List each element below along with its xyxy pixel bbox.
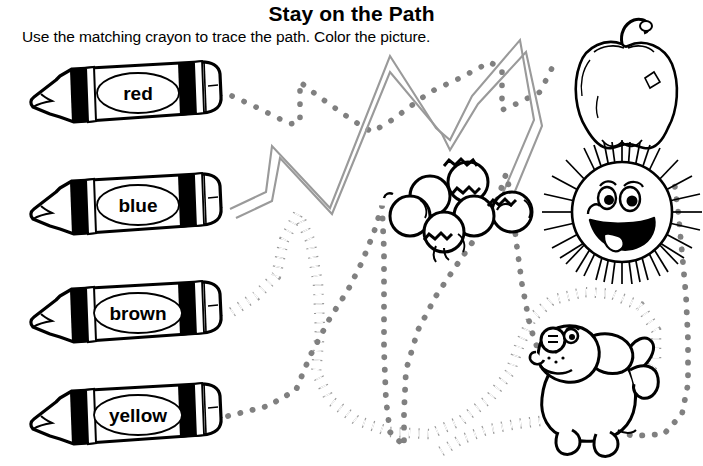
picture-apple [576, 19, 677, 148]
crayon-label-blue: blue [118, 195, 157, 216]
crayon-label-brown: brown [110, 303, 167, 324]
picture-sun [542, 140, 702, 284]
crayon-red[interactable]: red [31, 61, 221, 123]
crayon-brown[interactable]: brown [31, 281, 221, 343]
worksheet-page: Stay on the Path Use the matching crayon… [0, 0, 703, 466]
crayon-blue[interactable]: blue [31, 173, 221, 235]
crayon-yellow[interactable]: yellow [31, 383, 221, 445]
crayon-label-yellow: yellow [109, 405, 167, 426]
crayon-label-red: red [123, 83, 153, 104]
path-blue[interactable] [230, 40, 542, 218]
picture-dog [530, 326, 658, 457]
worksheet-artwork: red blue brown [0, 0, 703, 466]
